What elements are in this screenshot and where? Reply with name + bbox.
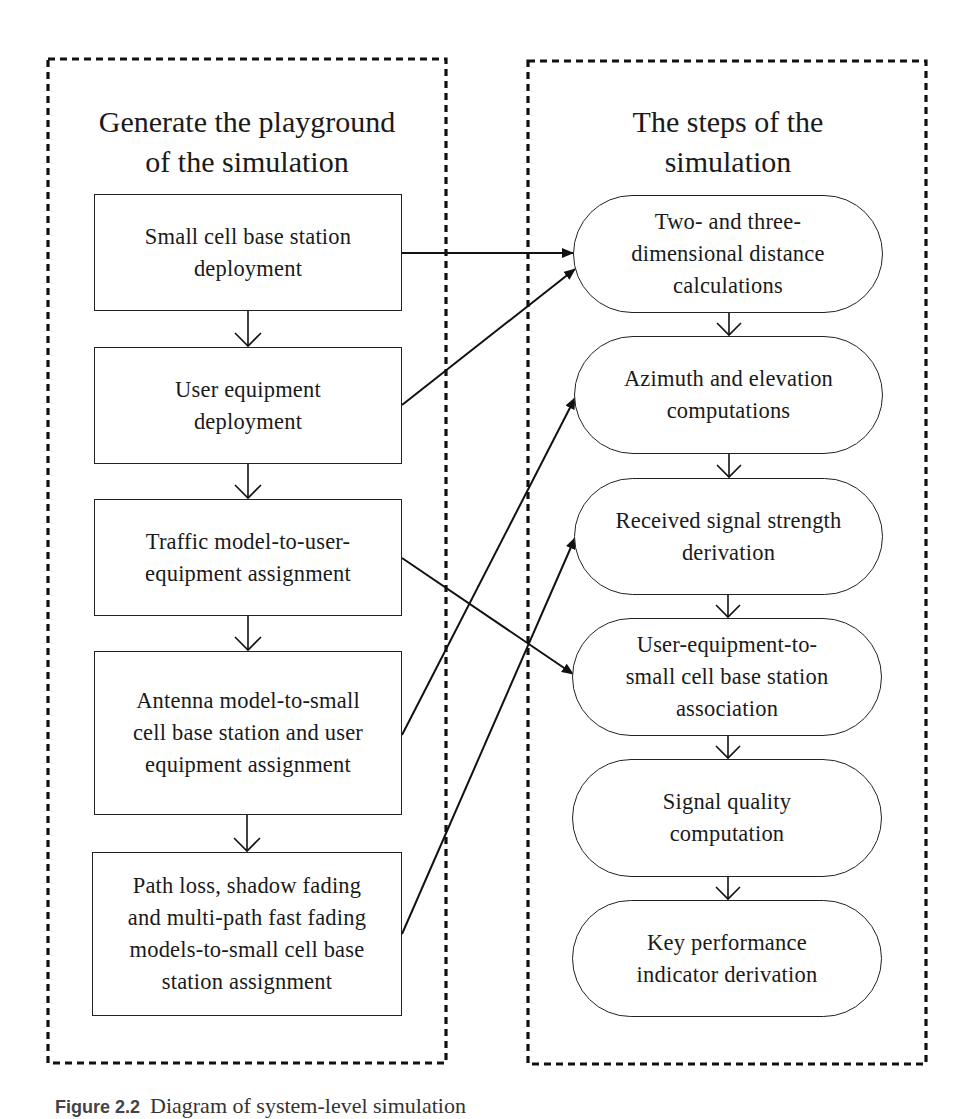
step-label: Traffic model-to-user- equipment assignm…: [145, 526, 351, 590]
right-group-title: The steps of the simulation: [540, 102, 916, 182]
step-label: Received signal strength derivation: [616, 505, 842, 569]
step-distance-calculations: Two- and three- dimensional distance cal…: [573, 195, 883, 313]
edge-L5-R3: [402, 538, 575, 934]
step-user-equipment-deployment: User equipment deployment: [94, 347, 402, 464]
step-label: Key performance indicator derivation: [637, 927, 818, 991]
step-label: Antenna model-to-small cell base station…: [133, 685, 363, 781]
step-label: Small cell base station deployment: [145, 221, 351, 285]
cross-group-arrows: [402, 253, 575, 934]
step-label: User-equipment-to- small cell base stati…: [626, 629, 829, 725]
figure-caption: Figure 2.2Diagram of system-level simula…: [55, 1093, 466, 1119]
step-signal-quality: Signal quality computation: [572, 759, 882, 877]
step-label: Azimuth and elevation computations: [624, 363, 833, 427]
step-label: Path loss, shadow fading and multi-path …: [128, 870, 366, 998]
step-traffic-model-assignment: Traffic model-to-user- equipment assignm…: [94, 499, 402, 616]
step-label: Signal quality computation: [663, 786, 791, 850]
step-received-signal-strength: Received signal strength derivation: [574, 478, 883, 595]
step-kpi-derivation: Key performance indicator derivation: [572, 900, 882, 1017]
step-label: Two- and three- dimensional distance cal…: [631, 206, 824, 302]
step-path-loss-fading-assignment: Path loss, shadow fading and multi-path …: [92, 852, 402, 1016]
edge-L4-R2: [402, 398, 575, 735]
edge-L2-R1: [402, 269, 575, 405]
figure-number: Figure 2.2: [55, 1097, 140, 1117]
step-antenna-model-assignment: Antenna model-to-small cell base station…: [94, 651, 402, 815]
step-label: User equipment deployment: [175, 374, 321, 438]
step-azimuth-elevation: Azimuth and elevation computations: [574, 336, 883, 454]
step-small-cell-deployment: Small cell base station deployment: [94, 194, 402, 311]
figure-caption-text: Diagram of system-level simulation: [150, 1093, 466, 1118]
left-group-title: Generate the playground of the simulatio…: [60, 102, 434, 182]
edge-L3-R4: [402, 558, 573, 674]
step-ue-bs-association: User-equipment-to- small cell base stati…: [572, 618, 882, 736]
